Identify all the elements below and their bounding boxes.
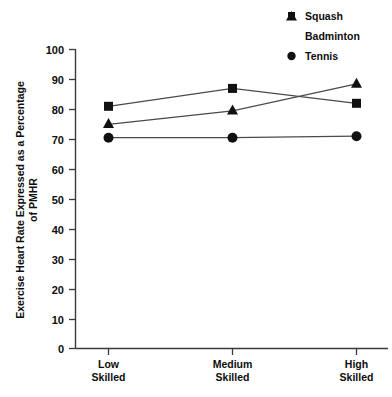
data-point-squash-high [352, 99, 361, 108]
legend-label-squash: Squash [305, 10, 343, 22]
y-tick-label-70: 70 [52, 134, 64, 146]
data-point-tennis-low [104, 133, 114, 143]
data-point-squash-low [104, 102, 113, 111]
y-tick-label-80: 80 [52, 104, 64, 116]
y-tick-label-50: 50 [52, 194, 64, 206]
legend: Squash Badminton Tennis [286, 10, 360, 62]
x-category-label-high-line2: Skilled [340, 371, 374, 383]
data-point-tennis-high [352, 131, 362, 141]
x-category-label-medium-line2: Skilled [216, 371, 250, 383]
y-tick-label-90: 90 [52, 74, 64, 86]
x-category-label-low-line1: Low [98, 358, 120, 370]
y-axis-title-line1: Exercise Heart Rate Expressed as a Perce… [14, 81, 26, 319]
y-tick-label-20: 20 [52, 284, 64, 296]
data-point-badminton-high [351, 78, 362, 88]
x-category-label-medium-line1: Medium [213, 358, 253, 370]
series-tennis [104, 131, 362, 143]
data-point-tennis-medium [228, 133, 238, 143]
x-category-label-high-line1: High [345, 358, 368, 370]
x-category-label-low-line2: Skilled [92, 371, 126, 383]
legend-triangle-icon [286, 11, 297, 21]
legend-label-tennis: Tennis [305, 50, 338, 62]
legend-circle-icon [287, 52, 295, 60]
y-tick-label-60: 60 [52, 164, 64, 176]
x-axis-ticks [109, 349, 357, 356]
data-point-squash-medium [228, 84, 237, 93]
data-point-badminton-low [103, 118, 114, 128]
legend-item-tennis: Tennis [287, 50, 338, 62]
chart-canvas: 100 90 80 70 60 50 40 30 20 10 0 Low Ski… [0, 0, 392, 397]
y-tick-label-30: 30 [52, 254, 64, 266]
line-chart: 100 90 80 70 60 50 40 30 20 10 0 Low Ski… [0, 0, 392, 397]
y-tick-label-40: 40 [52, 224, 64, 236]
y-tick-label-100: 100 [46, 44, 64, 56]
y-axis-ticks [69, 50, 76, 349]
y-tick-label-0: 0 [58, 343, 64, 355]
y-axis-title-line2: of PMHR [27, 178, 39, 222]
legend-label-badminton: Badminton [305, 30, 360, 42]
y-tick-label-10: 10 [52, 314, 64, 326]
